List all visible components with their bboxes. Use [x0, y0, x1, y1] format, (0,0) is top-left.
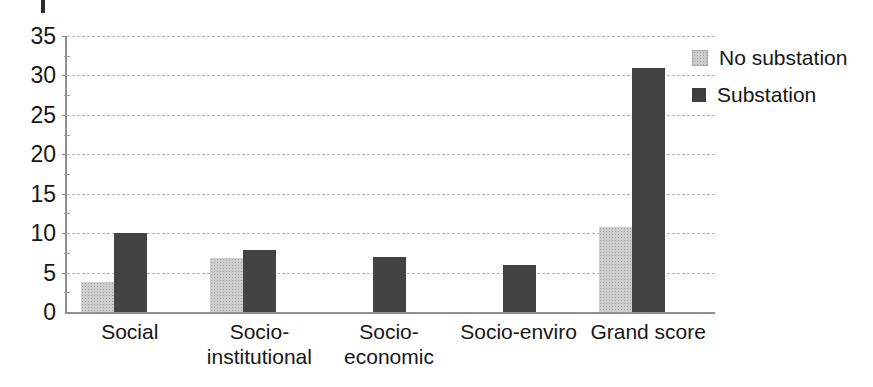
- bar-grand-score-no-substation: [599, 227, 632, 312]
- bar-socio-institutional-substation: [243, 250, 276, 312]
- y-axis-minor-tick: [64, 174, 70, 175]
- y-axis-minor-tick: [64, 292, 70, 293]
- legend-swatch-no-substation: [692, 50, 708, 66]
- x-axis-category-label-grand-score: Grand score: [573, 319, 723, 344]
- y-axis-major-tick: [62, 273, 67, 274]
- y-axis-major-tick: [62, 75, 67, 76]
- y-axis-minor-tick: [64, 253, 70, 254]
- y-axis-major-tick: [62, 194, 67, 195]
- legend: No substationSubstation: [692, 45, 847, 108]
- bar-socio-institutional-no-substation: [210, 258, 243, 312]
- y-axis-tick-label-0: 0: [6, 300, 56, 324]
- bar-socio-economic-substation: [373, 257, 406, 312]
- substation-score-bar-chart: 05101520253035 SocialSocio- institutiona…: [0, 0, 873, 387]
- y-axis-tick-label-5: 5: [6, 261, 56, 285]
- x-axis-category-label-socio-economic: Socio- economic: [314, 319, 464, 369]
- legend-label-substation: Substation: [717, 82, 816, 108]
- gridline-y-30: [67, 75, 715, 76]
- y-axis-major-tick: [62, 233, 67, 234]
- bar-social-no-substation: [81, 282, 114, 312]
- y-axis-major-tick: [62, 154, 67, 155]
- x-axis-category-label-social: Social: [55, 319, 205, 344]
- cropped-text-fragment: [41, 0, 45, 13]
- bar-social-substation: [114, 233, 147, 312]
- y-axis-minor-tick: [64, 135, 70, 136]
- x-axis-category-label-socio-enviro: Socio-enviro: [444, 319, 594, 344]
- legend-item-no-substation: No substation: [692, 45, 847, 71]
- bar-grand-score-substation: [632, 68, 665, 312]
- bar-socio-enviro-substation: [503, 265, 536, 312]
- plot-area: [65, 36, 715, 314]
- gridline-y-20: [67, 154, 715, 155]
- y-axis-tick-label-25: 25: [6, 103, 56, 127]
- legend-swatch-substation: [692, 88, 706, 102]
- y-axis-tick-label-20: 20: [6, 142, 56, 166]
- y-axis-major-tick: [62, 115, 67, 116]
- y-axis-tick-label-10: 10: [6, 221, 56, 245]
- y-axis-major-tick: [62, 36, 67, 37]
- y-axis-minor-tick: [64, 56, 70, 57]
- gridline-y-25: [67, 115, 715, 116]
- y-axis-tick-label-15: 15: [6, 182, 56, 206]
- y-axis-minor-tick: [64, 213, 70, 214]
- gridline-y-15: [67, 194, 715, 195]
- legend-item-substation: Substation: [692, 82, 847, 108]
- x-axis-category-label-socio-institutional: Socio- institutional: [185, 319, 335, 369]
- y-axis-tick-label-30: 30: [6, 63, 56, 87]
- y-axis-tick-label-35: 35: [6, 24, 56, 48]
- legend-label-no-substation: No substation: [719, 45, 847, 71]
- y-axis-minor-tick: [64, 95, 70, 96]
- gridline-y-35: [67, 36, 715, 37]
